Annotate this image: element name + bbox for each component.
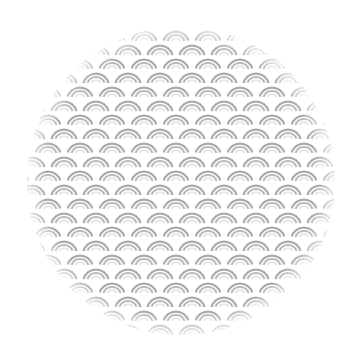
pattern-swatch <box>0 0 362 360</box>
seigaiha-circle <box>0 0 362 360</box>
edge-fade <box>27 27 335 335</box>
